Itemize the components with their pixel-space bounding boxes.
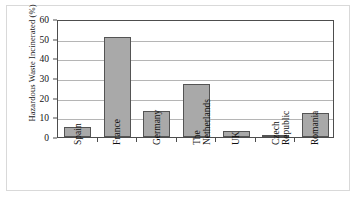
gridline xyxy=(58,60,333,61)
y-tick-label: 50 xyxy=(13,35,49,45)
y-tick-label: 20 xyxy=(13,94,49,104)
bar-chart-figure: Hazardous Waste Incinerated (%) 01020304… xyxy=(0,0,356,197)
x-tick-mark xyxy=(136,138,137,142)
x-tick-label: Czech Republic xyxy=(271,85,291,145)
x-tick-label: The Netherlands xyxy=(192,85,212,145)
y-tick-label: 40 xyxy=(13,54,49,64)
x-tick-mark xyxy=(294,138,295,142)
y-tick-label: 30 xyxy=(13,74,49,84)
x-tick-label: Romania xyxy=(310,85,320,145)
x-tick-label: UK xyxy=(231,85,241,145)
x-tick-label: France xyxy=(112,85,122,145)
y-tick-label: 60 xyxy=(13,15,49,25)
x-tick-mark xyxy=(215,138,216,142)
x-tick-mark xyxy=(176,138,177,142)
y-tick-label: 10 xyxy=(13,113,49,123)
x-tick-mark xyxy=(97,138,98,142)
x-tick-label: Spain xyxy=(73,85,83,145)
x-tick-label: Germany xyxy=(152,85,162,145)
y-tick-label: 0 xyxy=(13,133,49,143)
gridline xyxy=(58,41,333,42)
x-tick-mark xyxy=(255,138,256,142)
gridline xyxy=(58,80,333,81)
